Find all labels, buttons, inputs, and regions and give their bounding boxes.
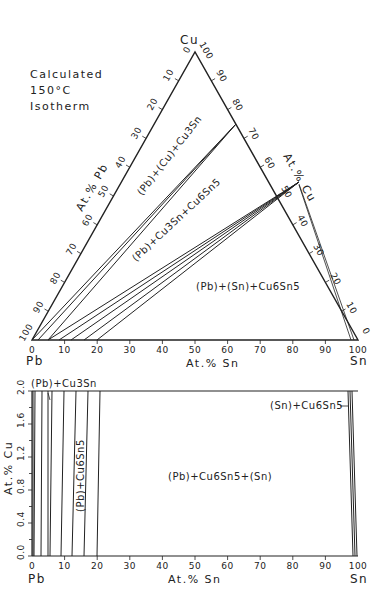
svg-text:90: 90: [319, 345, 331, 355]
svg-text:40: 40: [113, 154, 128, 170]
svg-text:60: 60: [221, 345, 233, 355]
tie-lines-cu3sn: [32, 124, 236, 340]
svg-text:30: 30: [129, 125, 144, 141]
phase-diagram-canvas: Calculated 150°C Isotherm: [0, 0, 388, 615]
phase-label-main: (Pb)+Cu6Sn5+(Sn): [168, 471, 272, 482]
title-line-2: 150°C: [30, 84, 72, 97]
svg-text:2.0: 2.0: [16, 379, 26, 395]
binary-vertex-pb: Pb: [28, 572, 46, 586]
svg-text:80: 80: [48, 270, 63, 286]
svg-text:90: 90: [31, 299, 46, 315]
svg-text:20: 20: [91, 345, 103, 355]
svg-text:100: 100: [349, 345, 368, 355]
svg-text:100: 100: [349, 561, 368, 571]
svg-text:0: 0: [29, 345, 35, 355]
left-axis-ticks: [45, 79, 179, 312]
binary-x-axis-label: At.% Sn: [168, 573, 222, 586]
svg-text:50: 50: [189, 561, 201, 571]
vertex-pb: Pb: [26, 354, 44, 368]
svg-text:70: 70: [246, 126, 261, 142]
binary-y-axis-label: At.% Cu: [2, 441, 15, 495]
phase-label-sn-cu6sn5: (Sn)+Cu6Sn5: [270, 400, 343, 411]
title-line-3: Isotherm: [30, 100, 91, 113]
bottom-tick-labels: 0 10 20 30 40 50 60 70 80 90 100: [29, 345, 367, 355]
title-line-1: Calculated: [30, 68, 103, 81]
svg-text:60: 60: [262, 155, 277, 171]
svg-text:80: 80: [230, 97, 245, 113]
bottom-axis-label: At.% Sn: [186, 357, 240, 370]
vertex-cu: Cu: [180, 33, 199, 47]
svg-text:0.0: 0.0: [16, 544, 26, 560]
svg-text:40: 40: [156, 561, 168, 571]
svg-text:1.2: 1.2: [16, 445, 26, 461]
svg-text:0.8: 0.8: [16, 478, 26, 494]
svg-text:80: 80: [287, 345, 299, 355]
right-axis-ticks: [211, 79, 345, 312]
svg-text:20: 20: [145, 96, 160, 112]
vertex-sn: Sn: [350, 354, 368, 368]
svg-text:20: 20: [91, 561, 103, 571]
svg-text:60: 60: [221, 561, 233, 571]
svg-text:70: 70: [254, 561, 266, 571]
svg-text:90: 90: [214, 68, 229, 84]
svg-text:80: 80: [287, 561, 299, 571]
svg-text:70: 70: [254, 345, 266, 355]
svg-text:40: 40: [156, 345, 168, 355]
svg-text:30: 30: [124, 345, 136, 355]
svg-text:40: 40: [295, 213, 310, 229]
binary-tie-lines-sn: [348, 391, 357, 556]
phase-label-pb-sn-cu6sn5: (Pb)+(Sn)+Cu6Sn5: [196, 281, 300, 292]
svg-text:0: 0: [360, 326, 372, 336]
svg-text:10: 10: [58, 345, 70, 355]
binary-vertex-sn: Sn: [350, 572, 368, 586]
phase-label-pb-cu3sn: (Pb)+Cu3Sn: [31, 378, 97, 389]
svg-text:0: 0: [29, 561, 35, 571]
svg-text:60: 60: [80, 212, 95, 228]
binary-y-tick-labels: 0.0 0.4 0.8 1.2 1.6 2.0: [16, 379, 26, 560]
svg-text:0.4: 0.4: [16, 511, 26, 527]
svg-text:10: 10: [58, 561, 70, 571]
svg-text:30: 30: [124, 561, 136, 571]
svg-text:100: 100: [197, 40, 215, 61]
svg-text:1.6: 1.6: [16, 412, 26, 428]
binary-x-tick-labels: 0 10 20 30 40 50 60 70 80 90 100: [29, 561, 367, 571]
phase-label-pb-cu-cu3sn: (Pb)+(Cu)+Cu3Sn: [135, 113, 204, 197]
svg-text:10: 10: [161, 67, 176, 83]
svg-text:50: 50: [189, 345, 201, 355]
svg-text:90: 90: [319, 561, 331, 571]
binary-tie-lines-pb: [33, 391, 100, 556]
svg-text:10: 10: [344, 300, 359, 316]
svg-text:70: 70: [64, 241, 79, 257]
phase-label-pb-cu6sn5: (Pb)+Cu6Sn5: [75, 439, 86, 512]
tie-lines-sn-side: [299, 184, 354, 340]
